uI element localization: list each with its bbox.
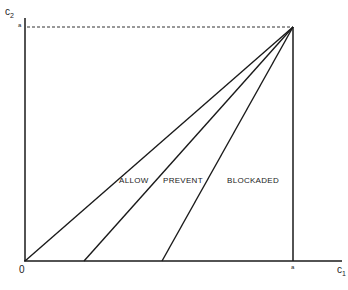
allow-boundary-line <box>25 27 293 261</box>
region-label-blockaded: BLOCKADED <box>227 176 279 185</box>
x-tick-a: a <box>291 264 294 270</box>
region-label-allow: ALLOW <box>119 176 149 185</box>
blockaded-boundary-line <box>162 27 293 261</box>
diagram-canvas <box>0 0 348 290</box>
x-axis-label: c1 <box>337 264 346 277</box>
y-axis-label: c2 <box>5 6 14 19</box>
y-tick-a: a <box>18 22 21 28</box>
prevent-boundary-line <box>84 27 293 261</box>
origin-label: 0 <box>19 264 25 275</box>
region-label-prevent: PREVENT <box>163 176 203 185</box>
